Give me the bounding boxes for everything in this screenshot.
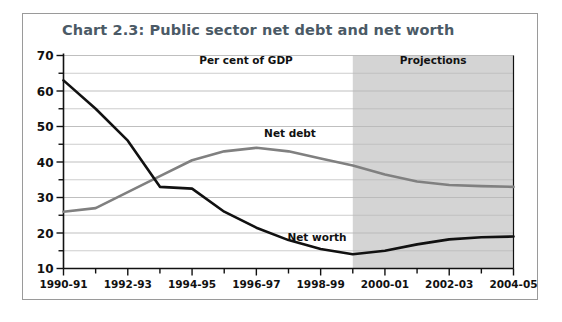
y-tick-label: 50 <box>37 120 54 134</box>
x-tick-label: 1996-97 <box>232 278 280 290</box>
x-tick-label: 1994-95 <box>168 278 216 290</box>
x-tick-label: 2004-05 <box>489 278 537 290</box>
x-tick-label: 1998-99 <box>297 278 345 290</box>
x-tick-label: 2002-03 <box>425 278 473 290</box>
y-tick-label: 60 <box>37 85 54 99</box>
y-tick-label: 70 <box>37 49 54 63</box>
x-tick-label: 1990-91 <box>39 278 87 290</box>
net-worth-series-label: Net worth <box>287 231 346 243</box>
y-tick-label: 20 <box>37 227 54 241</box>
x-tick-label: 2000-01 <box>361 278 409 290</box>
x-tick-label: 1992-93 <box>104 278 152 290</box>
x-axis-ticks: 1990-911992-931994-951996-971998-992000-… <box>39 269 537 290</box>
projections-label: Projections <box>400 54 467 66</box>
y-tick-label: 40 <box>37 156 54 170</box>
chart-figure: Chart 2.3: Public sector net debt and ne… <box>0 0 562 322</box>
net-debt-series-label: Net debt <box>264 127 316 139</box>
per-cent-of-gdp-label: Per cent of GDP <box>199 54 293 66</box>
y-tick-label: 10 <box>37 262 54 276</box>
chart-plot: 10203040506070 1990-911992-931994-951996… <box>0 0 562 322</box>
y-tick-label: 30 <box>37 191 54 205</box>
y-axis-ticks: 10203040506070 <box>37 49 64 276</box>
